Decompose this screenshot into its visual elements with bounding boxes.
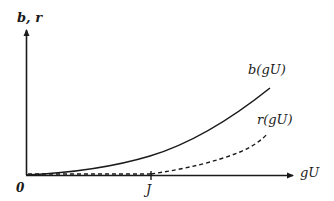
- b-curve: [26, 88, 270, 175]
- b-curve-label: b(gU): [248, 63, 286, 76]
- y-axis-label: b, r: [17, 11, 42, 24]
- r-curve: [151, 133, 268, 174]
- diagram-figure: b, r 0 J gU b(gU) r(gU): [0, 0, 334, 201]
- origin-label: 0: [16, 182, 24, 194]
- tick-label-j: J: [146, 183, 151, 196]
- x-axis-label: gU: [300, 166, 319, 179]
- r-curve-label: r(gU): [257, 113, 293, 126]
- diagram-canvas: [0, 0, 334, 201]
